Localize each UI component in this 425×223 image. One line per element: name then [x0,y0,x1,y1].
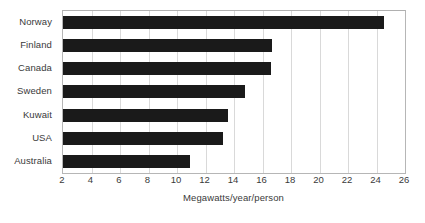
bar-row [63,127,405,150]
x-tick-label: 8 [145,174,150,185]
category-label: Canada [0,56,57,79]
bar-row [63,80,405,103]
bar [63,155,190,168]
bar-row [63,34,405,57]
x-tick-label: 16 [256,174,267,185]
x-tick-label: 18 [285,174,296,185]
x-tick-label: 24 [370,174,381,185]
x-tick-label: 22 [342,174,353,185]
x-tick-label: 2 [59,174,64,185]
bar [63,85,245,98]
x-tick-label: 12 [199,174,210,185]
bars-layer [63,11,405,173]
bar [63,132,223,145]
x-tick-label: 20 [313,174,324,185]
bar-row [63,150,405,173]
bar [63,39,272,52]
bar-chart: NorwayFinlandCanadaSwedenKuwaitUSAAustra… [0,0,425,223]
category-label: Sweden [0,79,57,102]
x-axis-title: Megawatts/year/person [62,192,405,203]
category-label: Kuwait [0,103,57,126]
value-axis: 2468101214161820222426 [62,174,405,190]
category-label: USA [0,126,57,149]
category-label: Finland [0,33,57,56]
category-label: Norway [0,10,57,33]
plot-area [62,10,406,174]
bar [63,109,228,122]
x-tick-label: 14 [228,174,239,185]
bar [63,62,271,75]
bar-row [63,11,405,34]
x-tick-label: 4 [88,174,93,185]
x-tick-label: 6 [116,174,121,185]
bar [63,16,384,29]
category-axis: NorwayFinlandCanadaSwedenKuwaitUSAAustra… [0,10,57,172]
category-label: Australia [0,149,57,172]
bar-row [63,57,405,80]
x-tick-label: 26 [399,174,410,185]
x-tick-label: 10 [171,174,182,185]
bar-row [63,104,405,127]
